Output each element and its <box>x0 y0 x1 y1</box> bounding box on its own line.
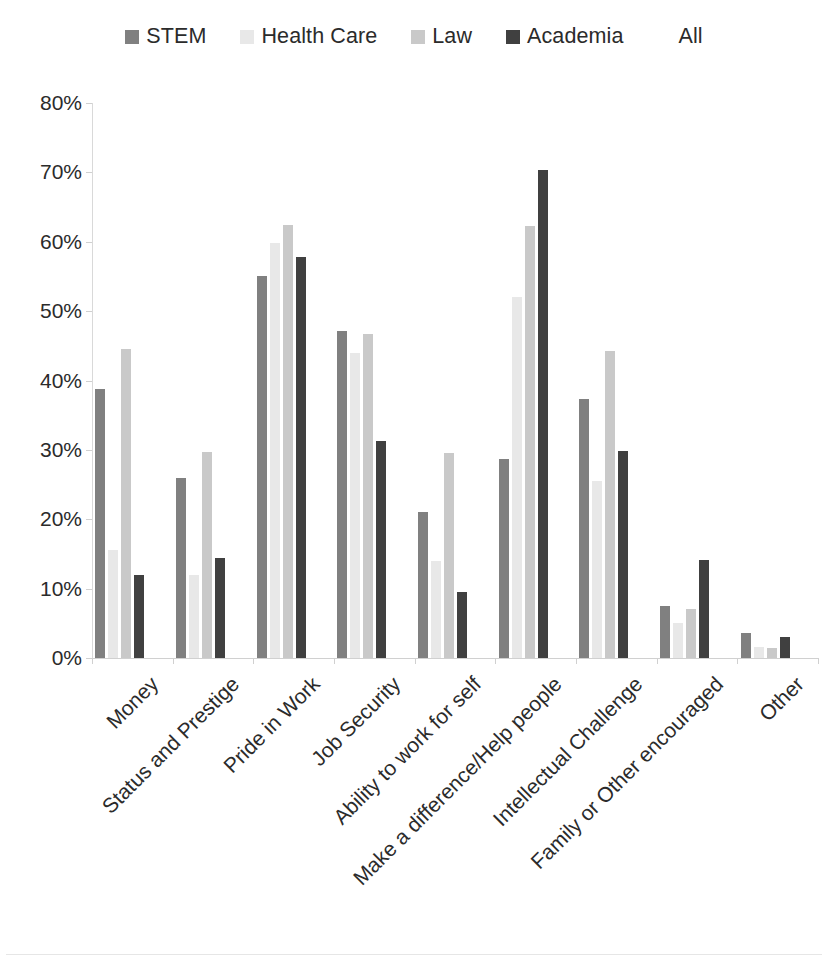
y-axis-tick-mark <box>86 589 92 590</box>
x-axis-tick-mark <box>173 658 174 664</box>
x-axis-tick-label: Job Security <box>114 672 406 964</box>
x-axis-tick-mark <box>92 658 93 664</box>
x-axis-tick-mark <box>737 658 738 664</box>
x-axis-tick-mark <box>576 658 577 664</box>
x-axis-tick-mark <box>415 658 416 664</box>
x-axis-tick-mark <box>495 658 496 664</box>
x-axis-tick-mark <box>657 658 658 664</box>
plot-area: 0%10%20%30%40%50%60%70%80% MoneyStatus a… <box>0 0 828 969</box>
x-axis-tick-mark <box>818 658 819 664</box>
bar-chart: STEMHealth CareLawAcademiaAll 0%10%20%30… <box>0 0 828 969</box>
y-axis-tick-mark <box>86 242 92 243</box>
y-axis-tick-mark <box>86 103 92 104</box>
y-axis-tick-mark <box>86 519 92 520</box>
x-axis-labels: MoneyStatus and PrestigePride in WorkJob… <box>0 0 828 969</box>
x-axis-tick-mark <box>253 658 254 664</box>
x-axis-tick-mark <box>334 658 335 664</box>
y-axis-tick-mark <box>86 311 92 312</box>
footer-divider <box>6 954 822 955</box>
y-axis-tick-mark <box>86 172 92 173</box>
y-axis-tick-mark <box>86 450 92 451</box>
y-axis-tick-mark <box>86 381 92 382</box>
